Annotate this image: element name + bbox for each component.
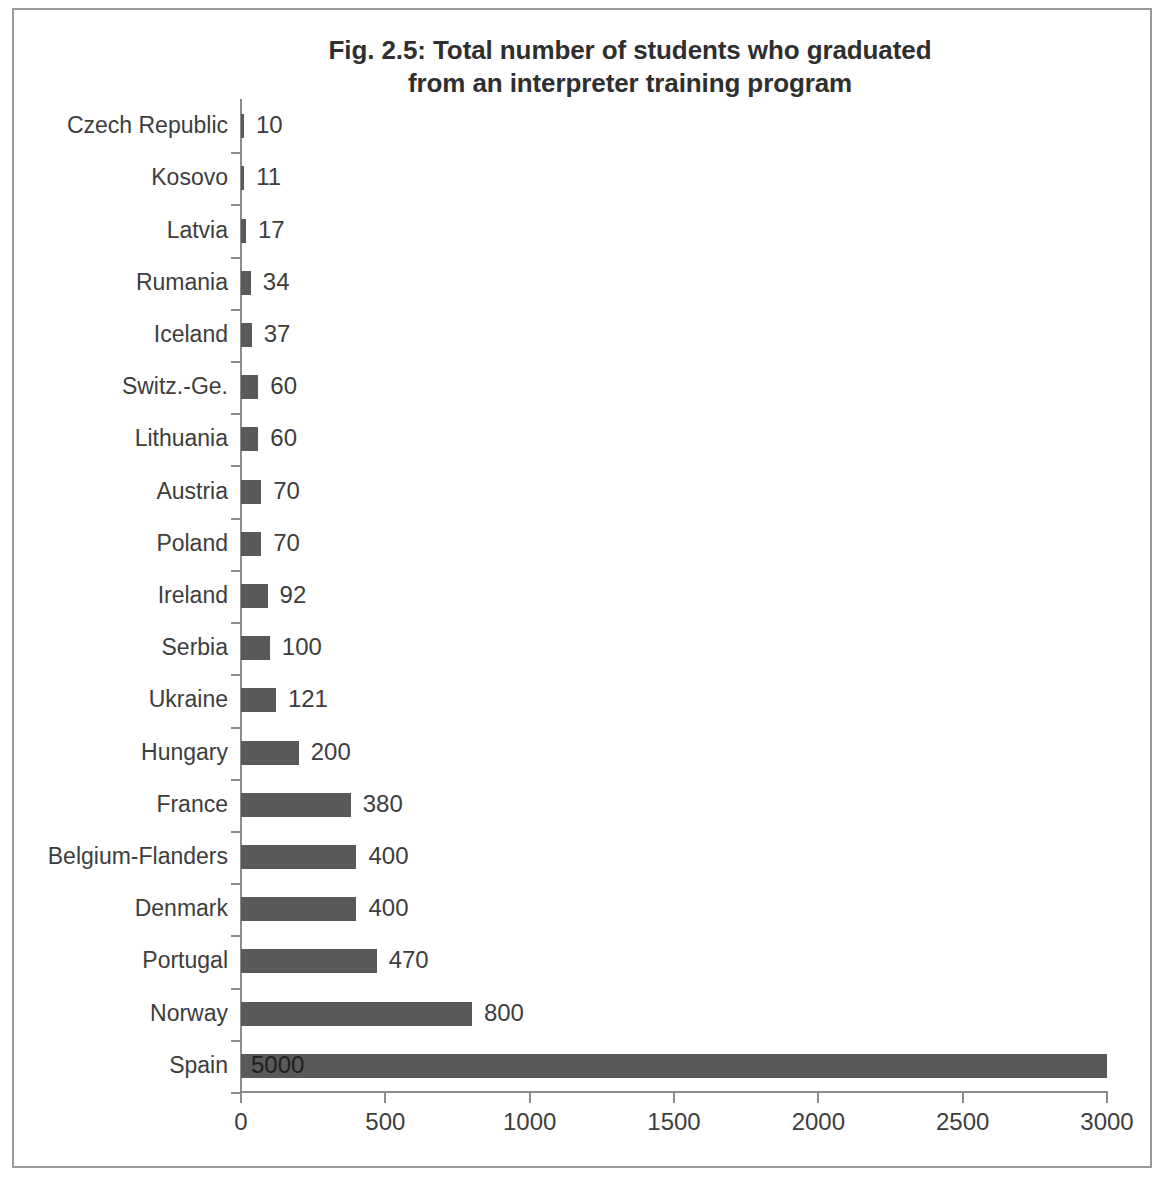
x-axis-tick (384, 1093, 386, 1103)
bar (241, 219, 246, 243)
bar (241, 323, 252, 347)
category-label: Serbia (0, 636, 228, 659)
bar (241, 1054, 1107, 1078)
category-label: Spain (0, 1054, 228, 1077)
bar-value-label: 5000 (251, 1053, 304, 1077)
bar-value-label: 70 (273, 479, 300, 503)
y-axis-tick (231, 831, 240, 833)
y-axis-tick (231, 309, 240, 311)
x-axis-tick (962, 1093, 964, 1103)
y-axis-tick (231, 204, 240, 206)
y-axis-tick (231, 361, 240, 363)
bar (241, 793, 351, 817)
category-label: Ukraine (0, 688, 228, 711)
bar-value-label: 200 (311, 740, 351, 764)
bar (241, 949, 377, 973)
y-axis-tick (231, 570, 240, 572)
bar (241, 375, 258, 399)
x-axis-tick (240, 1093, 242, 1103)
category-label: Latvia (0, 219, 228, 242)
x-axis-tick-label: 2000 (758, 1110, 878, 1134)
bar (241, 584, 268, 608)
bar-value-label: 34 (263, 270, 290, 294)
chart-title-line-2: from an interpreter training program (190, 67, 1070, 100)
category-label: Austria (0, 480, 228, 503)
category-label: Iceland (0, 323, 228, 346)
bar (241, 1002, 472, 1026)
x-axis-tick (673, 1093, 675, 1103)
category-label: Belgium-Flanders (0, 845, 228, 868)
chart-title: Fig. 2.5: Total number of students who g… (190, 34, 1070, 99)
bar-value-label: 17 (258, 218, 285, 242)
bar-value-label: 70 (273, 531, 300, 555)
y-axis-tick (231, 779, 240, 781)
x-axis-tick-label: 1500 (614, 1110, 734, 1134)
bar-value-label: 10 (256, 113, 283, 137)
bar (241, 114, 244, 138)
y-axis-tick (231, 988, 240, 990)
y-axis-tick (231, 674, 240, 676)
y-axis-tick (231, 257, 240, 259)
bar (241, 741, 299, 765)
category-label: Ireland (0, 584, 228, 607)
bar-value-label: 470 (389, 948, 429, 972)
bar (241, 532, 261, 556)
x-axis-tick-label: 0 (181, 1110, 301, 1134)
bar (241, 271, 251, 295)
x-axis-tick-label: 2500 (903, 1110, 1023, 1134)
bar (241, 636, 270, 660)
bar-value-label: 400 (368, 844, 408, 868)
y-axis-tick (231, 1092, 240, 1094)
y-axis-tick (231, 518, 240, 520)
x-axis-tick (817, 1093, 819, 1103)
bar-value-label: 11 (256, 165, 281, 189)
x-axis-tick-label: 500 (325, 1110, 445, 1134)
chart-title-line-1: Fig. 2.5: Total number of students who g… (190, 34, 1070, 67)
y-axis-tick (231, 727, 240, 729)
bar-chart: Fig. 2.5: Total number of students who g… (0, 0, 1158, 1178)
bar (241, 688, 276, 712)
bar (241, 845, 356, 869)
category-label: Switz.-Ge. (0, 375, 228, 398)
y-axis-tick (231, 622, 240, 624)
category-label: Lithuania (0, 427, 228, 450)
bar (241, 480, 261, 504)
bar-value-label: 121 (288, 687, 328, 711)
category-label: Portugal (0, 949, 228, 972)
y-axis-tick (231, 883, 240, 885)
y-axis-tick (231, 465, 240, 467)
x-axis-tick-label: 1000 (470, 1110, 590, 1134)
y-axis-tick (231, 413, 240, 415)
category-label: Norway (0, 1002, 228, 1025)
category-label: Czech Republic (0, 114, 228, 137)
y-axis-tick (231, 152, 240, 154)
bar-value-label: 400 (368, 896, 408, 920)
bar (241, 427, 258, 451)
bar-value-label: 92 (280, 583, 307, 607)
bar-value-label: 60 (270, 374, 297, 398)
category-label: Rumania (0, 271, 228, 294)
category-label: France (0, 793, 228, 816)
bar-value-label: 37 (264, 322, 291, 346)
x-axis-tick-label: 3000 (1047, 1110, 1158, 1134)
category-label: Kosovo (0, 166, 228, 189)
category-label: Poland (0, 532, 228, 555)
category-label: Denmark (0, 897, 228, 920)
bar-value-label: 100 (282, 635, 322, 659)
category-label: Hungary (0, 741, 228, 764)
bar (241, 166, 244, 190)
bar (241, 897, 356, 921)
x-axis-tick (1106, 1093, 1108, 1103)
y-axis-tick (231, 1040, 240, 1042)
bar-value-label: 800 (484, 1001, 524, 1025)
bar-value-label: 380 (363, 792, 403, 816)
y-axis-tick (231, 935, 240, 937)
bar-value-label: 60 (270, 426, 297, 450)
x-axis-tick (529, 1093, 531, 1103)
